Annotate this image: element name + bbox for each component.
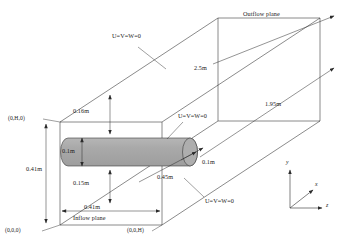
axis-x-arrow [290,190,313,208]
bc-label-cylinder: U=V=W=0 [178,113,207,119]
dim-length-downstream [200,68,334,157]
dim-label-length-downstream: 1.95m [265,101,281,107]
axis-label-z: z [326,203,328,209]
outflow-plane-label: Outflow plane [243,11,280,17]
edge-bottom-right [162,121,320,225]
axis-label-x: x [315,182,318,188]
dim-length-upstream [213,16,334,64]
leader-top-bc [138,47,166,69]
dim-label-offset-top: 0.16m [73,108,89,114]
dim-label-length-upstream: 2.5m [194,65,207,71]
coord-label-top-left: (0,H,0) [8,116,25,122]
leader-bottom-bc [184,178,204,197]
leader-origin-coord [42,225,60,231]
edge-top-right [162,18,320,122]
figure-container: U=V=W=0 U=V=W=0 U=V=W=0 Outflow plane In… [0,0,359,242]
inflow-plane-rect [60,122,162,225]
coord-label-origin: (0,0,0) [5,228,21,234]
dim-label-cylinder-end-diameter: 0.1m [202,159,215,165]
leader-cylinder-bc [167,122,183,139]
leader-top-left-coord [43,119,60,122]
domain-diagram [0,0,359,242]
dim-label-offset-bottom: 0.15m [73,180,89,186]
inflow-plane-label: Inflow plane [73,215,106,221]
duct-outline [60,18,320,225]
coord-label-bottom-right: (0,0,H) [127,228,144,234]
axis-label-y: y [286,160,289,166]
bc-label-bottom-wall: U=V=W=0 [205,198,234,204]
axis-triad [290,170,322,208]
dim-label-cylinder-length: 0.45m [157,174,173,180]
leader-bottom-right-coord [152,225,162,231]
dim-label-domain-height: 0.41m [26,166,42,172]
dim-label-cylinder-diameter: 0.1m [62,148,75,154]
bc-label-top-wall: U=V=W=0 [112,33,141,39]
dim-label-domain-width: 0.41m [84,204,100,210]
